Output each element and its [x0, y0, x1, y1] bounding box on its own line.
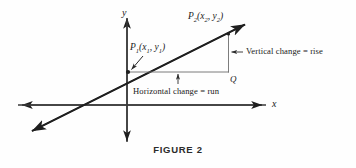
point-p1-label: P1(x1, y1): [130, 43, 165, 54]
x-axis-label: x: [272, 99, 276, 109]
horizontal-change-annotation: Horizontal change = run: [133, 87, 219, 96]
point-q-label: Q: [230, 75, 237, 84]
p1-paren-close: ): [162, 42, 165, 52]
point-p1-dot: [126, 70, 130, 74]
vertical-change-annotation: Vertical change = rise: [246, 47, 323, 56]
figure-graphic: [0, 0, 356, 168]
sloped-line: [32, 25, 245, 132]
p2-paren-close: ): [220, 11, 223, 21]
y-axis-label: y: [122, 8, 126, 18]
point-p2-dot: [227, 32, 230, 35]
figure-caption: FIGURE 2: [0, 144, 356, 155]
figure-container: y x P1(x1, y1) P2(x2, y2) Q Vertical cha…: [0, 0, 356, 168]
point-p2-label: P2(x2, y2): [188, 12, 223, 23]
p1-leader-arrow: [132, 56, 144, 70]
